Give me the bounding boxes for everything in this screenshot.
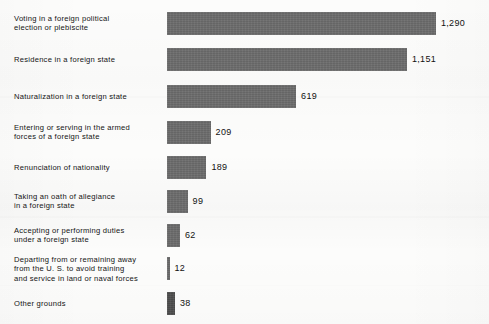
bar xyxy=(167,85,296,108)
bar xyxy=(167,48,407,71)
bar xyxy=(167,12,436,35)
bar-value-label: 1,151 xyxy=(412,55,436,64)
bar-value-label: 38 xyxy=(180,299,191,308)
plot-area: Voting in a foreign political election o… xyxy=(0,0,489,324)
bar-value-label: 1,290 xyxy=(441,19,465,28)
category-label: Residence in a foreign state xyxy=(14,55,164,64)
bar xyxy=(167,292,175,315)
bar xyxy=(167,190,188,213)
bar-value-label: 62 xyxy=(185,231,196,240)
category-label: Accepting or performing duties under a f… xyxy=(14,226,164,245)
bar-value-label: 189 xyxy=(211,163,227,172)
bar-value-label: 99 xyxy=(193,197,204,206)
bar-value-label: 619 xyxy=(301,92,317,101)
category-label: Renunciation of nationality xyxy=(14,163,164,172)
category-label: Entering or serving in the armed forces … xyxy=(14,123,164,142)
bar xyxy=(167,156,206,179)
bar-chart-figure: Voting in a foreign political election o… xyxy=(0,0,489,324)
category-label: Departing from or remaining away from th… xyxy=(14,255,164,283)
category-label: Voting in a foreign political election o… xyxy=(14,14,164,33)
category-label: Other grounds xyxy=(14,299,164,308)
bar xyxy=(167,257,170,280)
bar-value-label: 209 xyxy=(216,128,232,137)
bar-value-label: 12 xyxy=(175,264,186,273)
bar xyxy=(167,224,180,247)
bar xyxy=(167,121,211,144)
category-label: Taking an oath of allegiance in a foreig… xyxy=(14,192,164,211)
category-label: Naturalization in a foreign state xyxy=(14,92,164,101)
